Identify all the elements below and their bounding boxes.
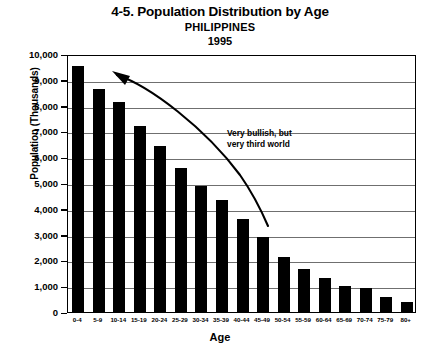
bar [175,168,187,312]
bar [93,89,105,312]
y-tick-label: 7,000 [0,127,58,137]
y-tick-label: 10,000 [0,50,58,60]
x-tick-label: 80+ [392,316,420,324]
bar [339,286,351,312]
bar [278,257,290,312]
y-tick-label: 2,000 [0,256,58,266]
chart-annotation-text: Very bullish, but very third world [227,128,292,149]
bar [216,200,228,312]
y-tick-label: 3,000 [0,231,58,241]
bar [257,237,269,312]
bar [298,269,310,312]
bar [237,219,249,312]
bar [319,278,331,312]
y-tick-label: 8,000 [0,102,58,112]
bar [154,146,166,312]
y-tick-label: 5,000 [0,179,58,189]
bar [72,66,84,312]
bar [401,302,413,312]
y-tick-label: 9,000 [0,76,58,86]
x-axis-title: Age [0,331,440,343]
y-tick-label: 6,000 [0,153,58,163]
plot-area [67,55,416,313]
bar [134,126,146,312]
chart-title-block: 4-5. Population Distribution by Age PHIL… [0,4,440,48]
bar-series [68,56,415,312]
bar [195,186,207,312]
bar [113,102,125,312]
y-tick-label: 1,000 [0,282,58,292]
page-title: 4-5. Population Distribution by Age [0,4,440,20]
y-tick-label: 4,000 [0,205,58,215]
chart-subtitle-year: 1995 [0,34,440,48]
bar [360,288,372,313]
chart-subtitle-country: PHILIPPINES [0,20,440,34]
y-tick-label: 0 [0,308,58,318]
bar [380,297,392,312]
population-chart: 4-5. Population Distribution by Age PHIL… [0,0,440,358]
